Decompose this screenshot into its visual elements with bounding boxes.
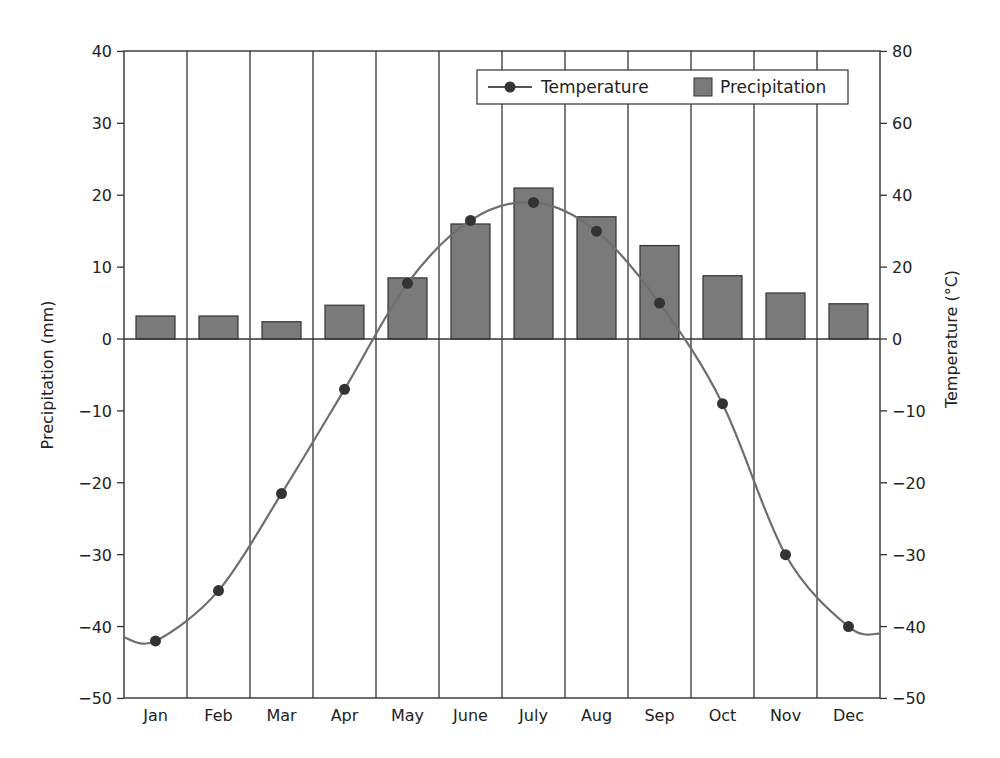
temperature-point (150, 635, 161, 646)
x-tick-label: Jan (142, 706, 168, 725)
x-tick-label: Dec (833, 706, 864, 725)
precipitation-bar (766, 293, 805, 339)
y-tick-label: −40 (78, 618, 112, 637)
right-axis-label: Temperature (°C) (942, 270, 961, 409)
precipitation-bar (451, 224, 490, 339)
y-tick-label: 20 (92, 186, 112, 205)
legend-bar-swatch-icon (694, 78, 712, 96)
y2-tick-label: −20 (892, 474, 926, 493)
temperature-point (465, 215, 476, 226)
precipitation-bar (829, 304, 868, 339)
x-tick-label: May (391, 706, 424, 725)
legend-precipitation-label: Precipitation (720, 77, 826, 97)
x-tick-label: Mar (266, 706, 297, 725)
y2-tick-label: 60 (892, 114, 912, 133)
y2-tick-label: 0 (892, 330, 902, 349)
left-axis-label: Precipitation (mm) (38, 301, 57, 450)
x-tick-label: Apr (331, 706, 359, 725)
precipitation-bar (325, 305, 364, 339)
y2-tick-label: 20 (892, 258, 912, 277)
left-axis-ticks: 403020100−10−20−30−40−50 (78, 42, 124, 708)
y2-tick-label: −50 (892, 689, 926, 708)
precipitation-bar (136, 316, 175, 339)
x-axis-labels: JanFebMarAprMayJuneJulyAugSepOctNovDec (142, 706, 864, 725)
temperature-point (780, 549, 791, 560)
y-tick-label: −50 (78, 689, 112, 708)
legend: Temperature Precipitation (477, 70, 848, 104)
temperature-point (213, 585, 224, 596)
x-tick-label: June (452, 706, 488, 725)
temperature-point (654, 298, 665, 309)
y2-tick-label: 80 (892, 42, 912, 61)
y2-tick-label: −30 (892, 546, 926, 565)
temperature-point (402, 278, 413, 289)
month-gridlines (187, 51, 817, 698)
y-tick-label: 0 (102, 330, 112, 349)
precipitation-bar (262, 322, 301, 339)
precipitation-bar (640, 246, 679, 339)
y-tick-label: −20 (78, 474, 112, 493)
temperature-point (717, 398, 728, 409)
y2-tick-label: −40 (892, 618, 926, 637)
precipitation-bar (703, 276, 742, 339)
x-tick-label: Sep (644, 706, 674, 725)
legend-marker-icon (505, 82, 516, 93)
y-tick-label: −10 (78, 402, 112, 421)
y2-tick-label: −10 (892, 402, 926, 421)
x-tick-label: Aug (581, 706, 612, 725)
temperature-point (843, 621, 854, 632)
y-tick-label: −30 (78, 546, 112, 565)
climate-chart: 403020100−10−20−30−40−50 806040200−10−20… (0, 0, 1000, 758)
temperature-point (339, 384, 350, 395)
right-axis-ticks: 806040200−10−20−30−40−50 (880, 42, 926, 708)
precipitation-bar (514, 188, 553, 339)
y-tick-label: 10 (92, 258, 112, 277)
x-tick-label: Nov (770, 706, 801, 725)
x-tick-label: Feb (204, 706, 232, 725)
y-tick-label: 30 (92, 114, 112, 133)
x-tick-label: Oct (709, 706, 737, 725)
legend-temperature-label: Temperature (540, 77, 649, 97)
temperature-point (276, 488, 287, 499)
precipitation-bar (199, 316, 238, 339)
y-tick-label: 40 (92, 42, 112, 61)
temperature-point (591, 226, 602, 237)
y2-tick-label: 40 (892, 186, 912, 205)
temperature-point (528, 197, 539, 208)
x-tick-label: July (518, 706, 548, 725)
